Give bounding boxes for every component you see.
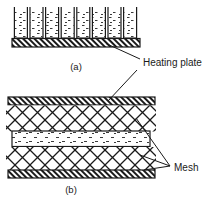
mesh-layer-upper	[6, 106, 156, 132]
figure-canvas: (a) (b)	[0, 0, 215, 215]
heating-plate-label-text: Heating plate	[143, 57, 202, 68]
figure-root: (a) (b)	[0, 0, 215, 215]
cell-fill-group	[15, 11, 136, 38]
fluid-channel	[12, 131, 150, 147]
panel-a-cell-array	[14, 7, 136, 38]
label-heating-plate: Heating plate	[106, 44, 202, 102]
panel-a: (a)	[12, 7, 140, 72]
mesh-layer-lower	[6, 147, 156, 170]
heating-plate-b-top	[8, 97, 155, 105]
panel-b: (b)	[6, 97, 156, 195]
heating-plate-b-bottom	[8, 170, 155, 178]
panel-a-caption: (a)	[70, 61, 82, 72]
heating-plate-leader-lines	[106, 44, 140, 102]
panel-b-caption: (b)	[65, 184, 77, 195]
heating-plate-a	[12, 39, 140, 48]
mesh-label-text: Mesh	[174, 162, 198, 173]
